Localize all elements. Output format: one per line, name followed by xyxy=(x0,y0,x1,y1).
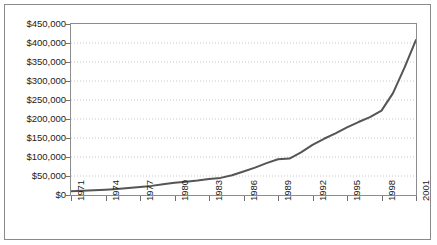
x-axis-tick-label: 1986 xyxy=(248,180,259,201)
x-axis-tick-label: 1992 xyxy=(317,180,328,201)
data-line xyxy=(71,40,416,191)
x-axis-tick-label: 1998 xyxy=(386,180,397,201)
x-axis-tick-label: 1989 xyxy=(282,180,293,201)
y-axis-tick-mark xyxy=(65,138,70,139)
y-axis-tick-mark xyxy=(65,100,70,101)
x-axis-tick-label: 1977 xyxy=(144,180,155,201)
x-axis-tick-label: 1971 xyxy=(75,180,86,201)
x-axis-tick-mark xyxy=(416,196,417,201)
x-axis-tick-mark xyxy=(313,196,314,201)
y-axis-tick-mark xyxy=(65,24,70,25)
x-axis-tick-mark xyxy=(71,196,72,201)
y-axis-tick-label: $400,000 xyxy=(0,38,66,48)
y-axis-tick-mark xyxy=(65,195,70,196)
x-axis-tick-mark xyxy=(382,196,383,201)
x-axis-tick-mark xyxy=(175,196,176,201)
x-axis-tick-label: 1983 xyxy=(213,180,224,201)
x-axis-tick-mark xyxy=(244,196,245,201)
x-axis-tick-mark xyxy=(106,196,107,201)
y-axis-tick-label: $450,000 xyxy=(0,19,66,29)
x-axis-tick-mark xyxy=(209,196,210,201)
y-axis-tick-label: $50,000 xyxy=(0,171,66,181)
y-axis-tick-label: $250,000 xyxy=(0,95,66,105)
y-axis-tick-mark xyxy=(65,81,70,82)
y-axis-tick-label: $0 xyxy=(0,190,66,200)
x-axis-tick-mark xyxy=(140,196,141,201)
gridlines xyxy=(71,43,416,176)
y-axis-tick-mark xyxy=(65,62,70,63)
x-axis-tick-label: 1995 xyxy=(351,180,362,201)
y-axis: $0$50,000$100,000$150,000$200,000$250,00… xyxy=(0,0,66,245)
x-axis-tick-label: 1980 xyxy=(179,180,190,201)
plot-area xyxy=(70,23,417,196)
y-axis-tick-mark xyxy=(65,43,70,44)
x-axis-tick-mark xyxy=(347,196,348,201)
y-axis-tick-label: $150,000 xyxy=(0,133,66,143)
y-axis-tick-mark xyxy=(65,119,70,120)
line-series-svg xyxy=(71,24,416,195)
y-axis-tick-label: $350,000 xyxy=(0,57,66,67)
chart-container: $0$50,000$100,000$150,000$200,000$250,00… xyxy=(0,0,437,245)
y-axis-tick-label: $100,000 xyxy=(0,152,66,162)
y-axis-tick-label: $200,000 xyxy=(0,114,66,124)
y-axis-tick-mark xyxy=(65,157,70,158)
x-axis-tick-mark xyxy=(278,196,279,201)
x-axis-tick-label: 1974 xyxy=(110,180,121,201)
y-axis-tick-mark xyxy=(65,176,70,177)
y-axis-tick-label: $300,000 xyxy=(0,76,66,86)
x-axis-tick-label: 2001 xyxy=(420,180,431,201)
